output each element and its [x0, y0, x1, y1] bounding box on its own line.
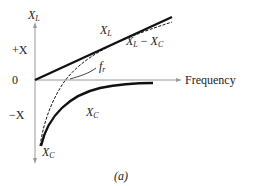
net-reactance-label: XL−XC [125, 34, 164, 49]
figure-caption: (a) [114, 169, 128, 183]
arrow-down-icon [33, 158, 37, 164]
fr-leader-line [70, 68, 96, 79]
xc-label: XC [85, 105, 99, 120]
y-axis-bottom-label: XC [41, 145, 55, 160]
y-axis-top-label: XL [27, 8, 40, 23]
arrow-right-icon [176, 78, 182, 82]
xl-label: XL [99, 23, 112, 38]
minus-x-label: −X [9, 108, 25, 122]
reactance-frequency-diagram: XL +X 0 −X XC Frequency XL XL−XC fr XC (… [0, 0, 255, 186]
plus-x-label: +X [12, 43, 28, 57]
fr-label: fr [99, 59, 106, 74]
x-axis-label: Frequency [185, 73, 236, 87]
vertical-axis [33, 22, 37, 164]
horizontal-axis [35, 78, 182, 82]
zero-label: 0 [12, 73, 18, 87]
